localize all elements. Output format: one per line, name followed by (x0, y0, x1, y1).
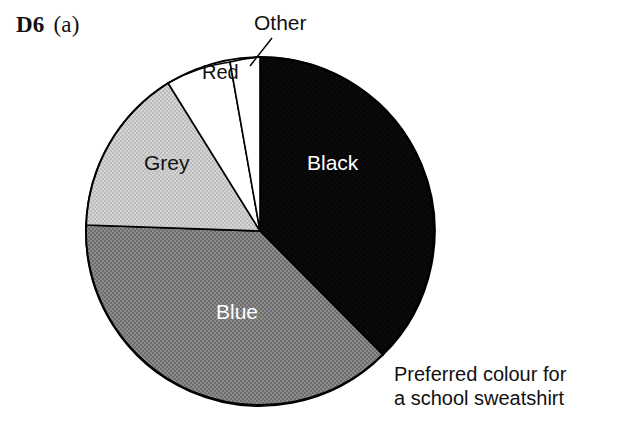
slice-label-black: Black (307, 152, 358, 173)
pie-chart-figure: D6(a) (0, 0, 619, 443)
caption-line-1: Preferred colour for (394, 363, 566, 387)
slice-label-other: Other (254, 12, 307, 33)
chart-caption: Preferred colour for a school sweatshirt (394, 363, 566, 410)
slice-label-red: Red (202, 62, 239, 82)
slice-label-grey: Grey (144, 152, 190, 173)
slice-label-blue: Blue (216, 301, 258, 322)
caption-line-2: a school sweatshirt (394, 387, 566, 411)
